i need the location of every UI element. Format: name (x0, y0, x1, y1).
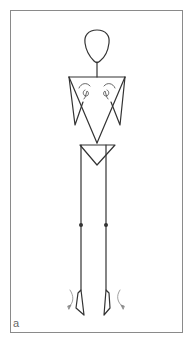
right-knee-dot (104, 223, 108, 227)
left-foot-rotation-arrow-icon (69, 290, 73, 307)
head-shape (85, 30, 109, 63)
right-foot (104, 290, 110, 315)
left-shoulder-spiral-icon (83, 90, 88, 99)
right-shoulder-spiral-icon (104, 90, 109, 99)
left-foot (76, 290, 84, 315)
stick-figure (0, 0, 195, 342)
pelvis-triangle (80, 145, 115, 165)
left-shoulder-rotation-arrow-icon (79, 84, 90, 88)
panel-label: a (13, 317, 19, 329)
right-shoulder-rotation-arrow-icon (104, 84, 115, 88)
left-knee-dot (79, 223, 83, 227)
torso-right-outline (111, 77, 125, 125)
torso-left-outline (69, 77, 83, 125)
torso-right-diagonal (97, 77, 125, 143)
